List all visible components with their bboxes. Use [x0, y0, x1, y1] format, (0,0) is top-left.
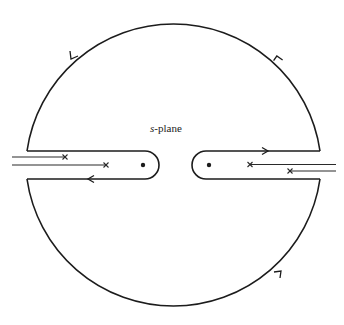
s-plane-label: s-plane [150, 122, 182, 134]
left-pole-dot [141, 163, 145, 167]
right-pole-dot [207, 163, 211, 167]
arrow-upper-left-icon [70, 51, 78, 59]
arrow-upper-right-icon [273, 55, 283, 61]
s-plane-diagram: s-plane [0, 0, 344, 325]
lower-arc [27, 179, 320, 306]
arrow-lower-right-icon [274, 271, 281, 278]
